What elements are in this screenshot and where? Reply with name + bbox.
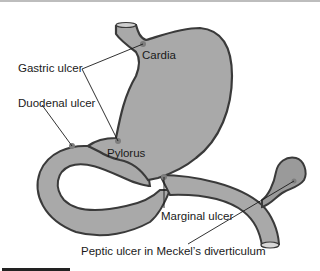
meckel-diverticulum bbox=[262, 158, 306, 207]
label-gastric-ulcer: Gastric ulcer bbox=[18, 63, 83, 75]
esophagus-opening bbox=[116, 23, 136, 28]
label-duodenal-ulcer: Duodenal ulcer bbox=[18, 98, 95, 110]
label-cardia: Cardia bbox=[142, 50, 176, 62]
leader-duodenal-ulcer bbox=[42, 105, 72, 146]
stomach-diagram bbox=[0, 0, 320, 271]
label-meckel-diverticulum: Peptic ulcer in Meckel’s diverticulum bbox=[81, 246, 266, 258]
label-marginal-ulcer: Marginal ulcer bbox=[161, 211, 233, 223]
label-pylorus: Pylorus bbox=[107, 148, 145, 160]
